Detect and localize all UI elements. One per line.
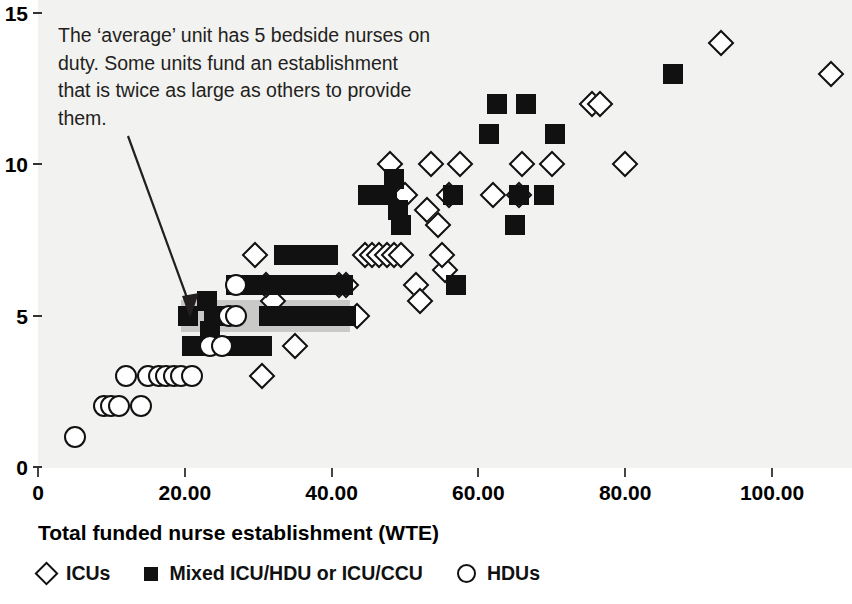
data-point-square bbox=[336, 306, 356, 326]
x-axis-tick-label: 20.00 bbox=[159, 482, 212, 503]
data-point-square bbox=[333, 275, 353, 295]
y-axis-tick-label: 0 bbox=[0, 457, 28, 478]
data-point-square bbox=[663, 64, 683, 84]
data-point-square bbox=[487, 94, 507, 114]
annotation-callout-text: The ‘average’ unit has 5 bedside nurses … bbox=[58, 22, 433, 133]
data-point-square bbox=[443, 185, 463, 205]
y-axis-tick-mark bbox=[33, 163, 42, 165]
data-point-square bbox=[509, 185, 529, 205]
legend-label: HDUs bbox=[487, 562, 540, 585]
data-point-square bbox=[366, 185, 386, 205]
legend-label: ICUs bbox=[66, 562, 110, 585]
chart-legend: ICUsMixed ICU/HDU or ICU/CCUHDUs bbox=[38, 562, 574, 585]
data-point-square bbox=[505, 215, 525, 235]
data-point-circle bbox=[211, 335, 233, 357]
legend-label: Mixed ICU/HDU or ICU/CCU bbox=[169, 562, 423, 585]
data-point-circle bbox=[225, 274, 247, 296]
x-axis-tick-mark bbox=[477, 468, 479, 477]
data-point-circle bbox=[115, 365, 137, 387]
x-axis-tick-label: 40.00 bbox=[305, 482, 358, 503]
circle-marker-icon bbox=[457, 564, 476, 583]
y-axis-tick-mark bbox=[33, 315, 42, 317]
x-axis-tick-mark bbox=[624, 468, 626, 477]
legend-entry-hdus[interactable]: HDUs bbox=[457, 562, 540, 585]
x-axis-tick-label: 80.00 bbox=[599, 482, 652, 503]
y-axis-tick-label: 15 bbox=[0, 3, 28, 24]
diamond-marker-icon bbox=[34, 561, 58, 585]
data-point-square bbox=[384, 169, 404, 189]
data-point-square bbox=[446, 275, 466, 295]
data-point-square bbox=[391, 215, 411, 235]
y-axis-tick-label: 5 bbox=[0, 305, 28, 326]
data-point-square bbox=[545, 124, 565, 144]
data-point-square bbox=[178, 306, 198, 326]
data-point-square bbox=[252, 336, 272, 356]
y-axis-tick-label: 10 bbox=[0, 154, 28, 175]
data-point-square bbox=[534, 185, 554, 205]
data-point-circle bbox=[225, 305, 247, 327]
data-point-square bbox=[318, 245, 338, 265]
x-axis-tick-label: 60.00 bbox=[452, 482, 505, 503]
x-axis-tick-mark bbox=[331, 468, 333, 477]
square-marker-icon bbox=[144, 567, 158, 581]
data-point-circle bbox=[181, 365, 203, 387]
x-axis-tick-mark bbox=[37, 468, 39, 477]
data-point-circle bbox=[130, 395, 152, 417]
scatter-chart-figure: 051015 020.0040.0060.0080.00100.00 The ‘… bbox=[0, 0, 852, 604]
x-axis-title: Total funded nurse establishment (WTE) bbox=[38, 521, 439, 545]
legend-entry-icus[interactable]: ICUs bbox=[38, 562, 110, 585]
x-axis-tick-mark bbox=[771, 468, 773, 477]
data-point-square bbox=[516, 94, 536, 114]
x-axis-tick-label: 100.00 bbox=[740, 482, 804, 503]
data-point-square bbox=[479, 124, 499, 144]
data-point-square bbox=[318, 306, 338, 326]
x-axis-tick-label: 0 bbox=[32, 482, 44, 503]
data-point-circle bbox=[64, 426, 86, 448]
x-axis-tick-mark bbox=[184, 468, 186, 477]
data-point-circle bbox=[108, 395, 130, 417]
y-axis-tick-mark bbox=[33, 12, 42, 14]
legend-entry-mixed-icu-hdu-or-icu-ccu[interactable]: Mixed ICU/HDU or ICU/CCU bbox=[144, 562, 423, 585]
